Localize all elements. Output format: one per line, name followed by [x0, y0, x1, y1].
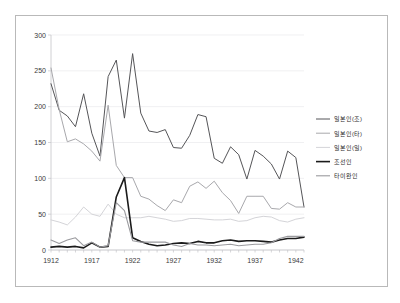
y-tick-label-50: 50: [38, 211, 46, 218]
line-chart: 0501001502002503001912191719221927193219…: [16, 16, 389, 288]
y-tick-label-200: 200: [34, 103, 46, 110]
chart-legend: 일본인(조)일본인(타)일본인(일)조선인타이완인: [316, 115, 362, 180]
legend-label-0: 일본인(조): [334, 115, 362, 122]
legend-label-4: 타이완인: [334, 172, 358, 180]
x-axis-labels: 1912191719221927193219371942: [43, 257, 304, 264]
series-line-0: [51, 54, 304, 207]
gridlines: [51, 35, 304, 250]
y-tick-label-250: 250: [34, 67, 46, 74]
legend-label-1: 일본인(타): [334, 130, 362, 138]
series-group: [51, 54, 304, 248]
x-tick-label-1942: 1942: [288, 257, 304, 264]
legend-label-2: 일본인(일): [334, 144, 362, 151]
x-tick-label-1932: 1932: [206, 257, 222, 264]
x-tick-label-1917: 1917: [84, 257, 100, 264]
series-line-4: [51, 203, 304, 247]
y-tick-label-0: 0: [42, 247, 46, 254]
series-line-2: [51, 204, 304, 225]
chart-frame: 0501001502002503001912191719221927193219…: [15, 15, 388, 287]
x-tick-label-1927: 1927: [166, 257, 182, 264]
y-tick-label-150: 150: [34, 139, 46, 146]
chart-plot-wrapper: 0501001502002503001912191719221927193219…: [16, 16, 389, 288]
series-line-1: [51, 68, 304, 213]
x-tick-label-1937: 1937: [247, 257, 263, 264]
series-line-3: [51, 178, 304, 248]
y-tick-label-300: 300: [34, 32, 46, 39]
y-tick-label-100: 100: [34, 175, 46, 182]
x-tick-label-1912: 1912: [43, 257, 59, 264]
legend-label-3: 조선인: [334, 158, 352, 165]
y-axis-labels: 050100150200250300: [34, 32, 51, 254]
x-tick-label-1922: 1922: [125, 257, 141, 264]
